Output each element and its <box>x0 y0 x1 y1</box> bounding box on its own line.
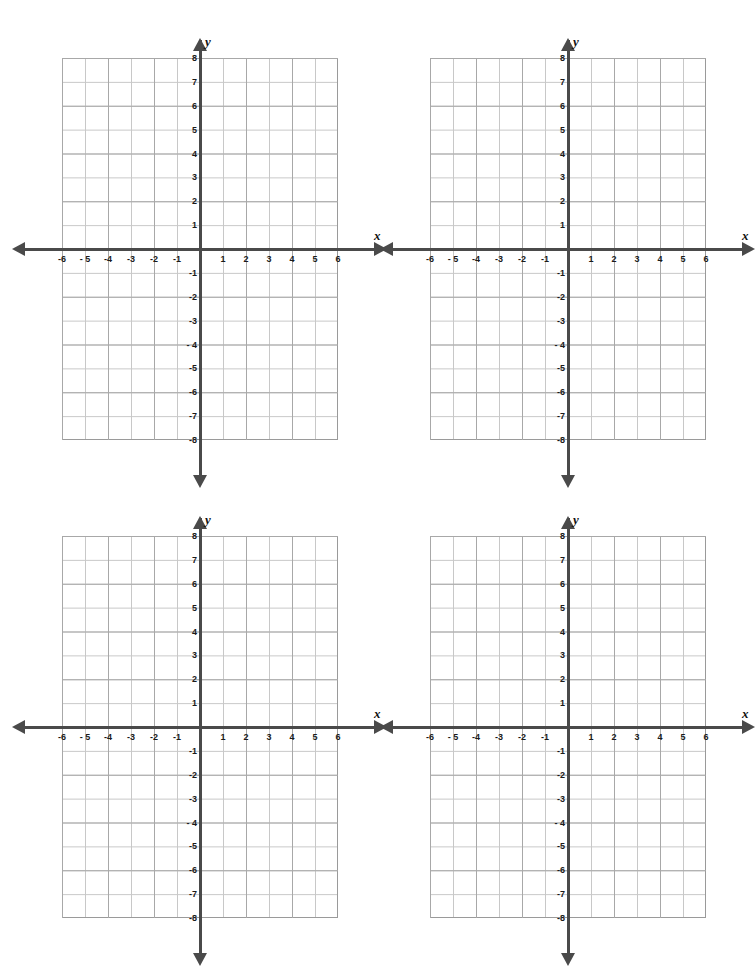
y-tick-label: 8 <box>543 53 565 63</box>
x-tick-label: 4 <box>281 732 304 742</box>
x-tick-label: -3 <box>488 732 511 742</box>
x-tick-label: 6 <box>695 254 718 264</box>
x-tick-label: -1 <box>166 732 189 742</box>
y-tick-label: -1 <box>543 746 565 756</box>
x-tick-label: 2 <box>235 254 258 264</box>
x-tick-label: 6 <box>327 254 350 264</box>
x-tick-label: -6 <box>51 732 74 742</box>
y-tick-label: -6 <box>175 387 197 397</box>
coordinate-graph-4[interactable]: yx-6- 5-4-3-2-112345687654321-1-2-3- 4-5… <box>368 508 733 970</box>
y-tick-label: -5 <box>543 841 565 851</box>
y-tick-label: 4 <box>543 627 565 637</box>
y-tick-label: -3 <box>543 794 565 804</box>
y-tick-label: 4 <box>175 627 197 637</box>
y-tick-label: 6 <box>175 579 197 589</box>
y-tick-label: 6 <box>543 101 565 111</box>
y-tick-label: -2 <box>175 292 197 302</box>
y-tick-label: 4 <box>175 149 197 159</box>
x-tick-label: -6 <box>419 732 442 742</box>
y-tick-label: 3 <box>543 172 565 182</box>
x-tick-label: -4 <box>465 254 488 264</box>
x-axis-arrow-left-icon <box>380 242 393 256</box>
y-tick-label: -6 <box>543 387 565 397</box>
y-tick-label: 1 <box>543 698 565 708</box>
y-tick-label: 6 <box>175 101 197 111</box>
x-tick-label: -4 <box>97 254 120 264</box>
y-axis-line <box>199 518 202 958</box>
y-tick-label: -8 <box>175 435 197 445</box>
y-tick-label: -2 <box>543 770 565 780</box>
x-tick-label: 5 <box>672 732 695 742</box>
y-axis-arrow-down-icon <box>193 953 207 966</box>
coordinate-graph-3[interactable]: yx-6- 5-4-3-2-112345687654321-1-2-3- 4-5… <box>0 508 365 970</box>
x-axis-arrow-left-icon <box>12 242 25 256</box>
x-tick-label: 1 <box>580 254 603 264</box>
x-tick-label: 3 <box>626 254 649 264</box>
x-tick-label: 1 <box>580 732 603 742</box>
x-tick-label: 4 <box>281 254 304 264</box>
y-tick-label: -1 <box>175 746 197 756</box>
y-tick-label: 1 <box>175 698 197 708</box>
y-tick-label: 3 <box>175 172 197 182</box>
x-tick-label: -1 <box>534 732 557 742</box>
x-tick-label: 3 <box>258 254 281 264</box>
y-tick-label: - 4 <box>543 818 565 828</box>
y-axis-label: y <box>205 34 211 50</box>
y-tick-label: 1 <box>543 220 565 230</box>
y-tick-label: 6 <box>543 579 565 589</box>
y-axis-line <box>567 40 570 480</box>
y-tick-label: -2 <box>543 292 565 302</box>
coordinate-graph-2[interactable]: yx-6- 5-4-3-2-112345687654321-1-2-3- 4-5… <box>368 30 733 530</box>
y-axis-label: y <box>205 512 211 528</box>
y-tick-label: -1 <box>543 268 565 278</box>
x-tick-label: -2 <box>511 732 534 742</box>
x-tick-label: -4 <box>97 732 120 742</box>
y-tick-label: 3 <box>175 650 197 660</box>
y-axis-label: y <box>573 34 579 50</box>
x-tick-label: 2 <box>235 732 258 742</box>
x-tick-label: -6 <box>51 254 74 264</box>
y-tick-label: 5 <box>543 603 565 613</box>
x-axis-label: x <box>742 706 749 722</box>
x-tick-label: -4 <box>465 732 488 742</box>
y-tick-label: -7 <box>543 411 565 421</box>
x-tick-label: 6 <box>327 732 350 742</box>
y-tick-label: 3 <box>543 650 565 660</box>
y-tick-label: 7 <box>543 555 565 565</box>
x-tick-label: 3 <box>258 732 281 742</box>
y-tick-label: - 4 <box>543 340 565 350</box>
y-tick-label: 5 <box>175 603 197 613</box>
y-tick-label: 5 <box>175 125 197 135</box>
y-axis-line <box>567 518 570 958</box>
y-tick-label: 7 <box>175 77 197 87</box>
x-tick-label: -2 <box>511 254 534 264</box>
x-tick-label: 1 <box>212 254 235 264</box>
y-axis-label: y <box>573 512 579 528</box>
x-axis-arrow-left-icon <box>380 720 393 734</box>
x-tick-label: 3 <box>626 732 649 742</box>
x-tick-label: - 5 <box>442 732 465 742</box>
x-axis-arrow-left-icon <box>12 720 25 734</box>
y-tick-label: -3 <box>175 794 197 804</box>
x-tick-label: 5 <box>304 254 327 264</box>
x-tick-label: -1 <box>534 254 557 264</box>
y-axis-arrow-down-icon <box>561 953 575 966</box>
x-tick-label: -2 <box>143 254 166 264</box>
x-axis-arrow-right-icon <box>742 720 755 734</box>
y-tick-label: - 4 <box>175 818 197 828</box>
y-tick-label: 1 <box>175 220 197 230</box>
x-tick-label: -3 <box>488 254 511 264</box>
y-tick-label: -6 <box>543 865 565 875</box>
y-tick-label: -2 <box>175 770 197 780</box>
y-tick-label: -3 <box>175 316 197 326</box>
x-tick-label: -1 <box>166 254 189 264</box>
y-tick-label: -8 <box>543 913 565 923</box>
x-tick-label: -3 <box>120 254 143 264</box>
x-tick-label: 2 <box>603 732 626 742</box>
coordinate-graph-1[interactable]: yx-6- 5-4-3-2-112345687654321-1-2-3- 4-5… <box>0 30 365 530</box>
y-tick-label: -3 <box>543 316 565 326</box>
x-tick-label: - 5 <box>74 732 97 742</box>
x-tick-label: 6 <box>695 732 718 742</box>
x-tick-label: 4 <box>649 732 672 742</box>
